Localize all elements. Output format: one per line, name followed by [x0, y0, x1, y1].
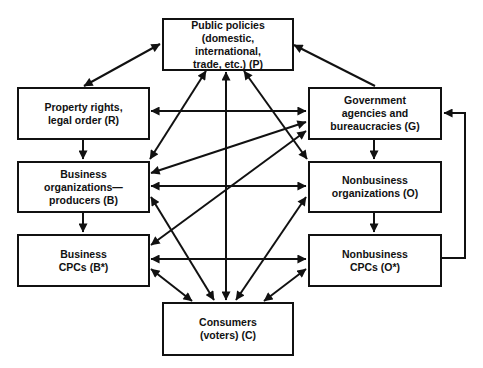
edge-b-c	[151, 197, 214, 300]
node-nonbusiness-cpcs: Nonbusiness CPCs (O*)	[308, 234, 442, 287]
node-label: Government agencies and bureaucracies (G…	[330, 94, 419, 133]
node-label: Nonbusiness CPCs (O*)	[342, 248, 408, 274]
edge-p-b	[150, 71, 206, 159]
edge-ostar-c	[264, 269, 306, 301]
node-nonbusiness-organizations: Nonbusiness organizations (O)	[308, 161, 442, 213]
edge-g-p	[294, 45, 375, 86]
node-label: Consumers (voters) (C)	[199, 316, 257, 342]
node-government-agencies: Government agencies and bureaucracies (G…	[308, 87, 442, 140]
node-property-rights: Property rights, legal order (R)	[17, 87, 150, 140]
node-public-policies: Public policies (domestic, international…	[162, 18, 294, 71]
node-business-cpcs: Business CPCs (B*)	[17, 234, 150, 287]
edge-bstar-c	[151, 269, 192, 301]
node-label: Nonbusiness organizations (O)	[332, 174, 418, 200]
edge-o-c	[236, 197, 306, 300]
edge-ostar-g	[442, 113, 465, 258]
edge-p-o	[244, 71, 307, 159]
edge-p-r	[84, 44, 160, 86]
node-label: Property rights, legal order (R)	[44, 101, 122, 127]
node-label: Public policies (domestic, international…	[191, 19, 265, 71]
node-business-organizations: Business organizations— producers (B)	[17, 161, 150, 213]
node-label: Business CPCs (B*)	[59, 248, 109, 274]
node-label: Business organizations— producers (B)	[44, 168, 123, 207]
node-consumers: Consumers (voters) (C)	[162, 302, 294, 356]
